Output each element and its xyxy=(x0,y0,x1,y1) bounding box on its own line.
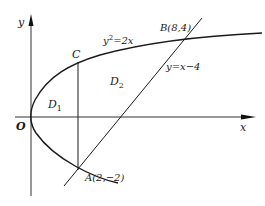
x-axis-label: x xyxy=(240,121,247,134)
parabola-equation-label: y2=2x xyxy=(102,34,134,46)
y-axis-arrow-icon xyxy=(29,14,34,26)
diagram-canvas: y x O C y2=2x B(8,4) y=x−4 D2 D1 A(2,−2) xyxy=(0,0,265,206)
point-A-label: A(2,−2) xyxy=(84,172,124,183)
point-C-label: C xyxy=(72,48,81,61)
origin-label: O xyxy=(16,120,26,133)
parabola-line-region-diagram: y x O C y2=2x B(8,4) y=x−4 D2 D1 A(2,−2) xyxy=(0,0,265,206)
line-equation-label: y=x−4 xyxy=(165,61,200,72)
parabola-curve xyxy=(31,33,262,183)
point-B-label: B(8,4) xyxy=(159,22,191,33)
x-axis-arrow-icon xyxy=(241,115,256,120)
region-D2-label: D2 xyxy=(109,75,124,90)
x-axis xyxy=(15,115,256,120)
y-axis-label: y xyxy=(17,16,25,29)
region-D1-label: D1 xyxy=(47,98,62,113)
